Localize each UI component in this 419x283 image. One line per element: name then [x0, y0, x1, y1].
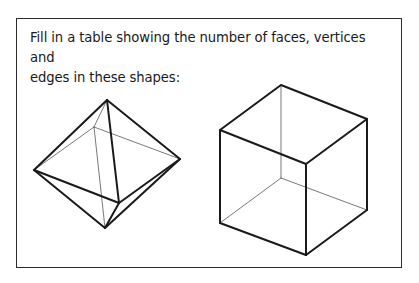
- shapes-diagram: [0, 0, 419, 283]
- cube-shape: [220, 85, 367, 255]
- octahedron-shape: [34, 100, 180, 228]
- octahedron-hidden-edges: [34, 100, 180, 228]
- octahedron-visible-edges: [34, 100, 180, 228]
- cube-visible-edges: [220, 85, 367, 255]
- cube-hidden-edges: [220, 85, 367, 223]
